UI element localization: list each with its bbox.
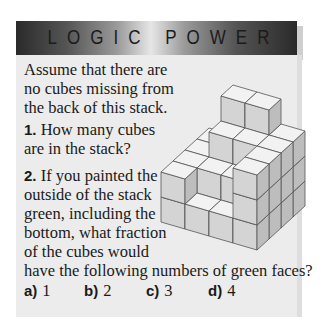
cube-stack-illustration	[0, 0, 324, 317]
